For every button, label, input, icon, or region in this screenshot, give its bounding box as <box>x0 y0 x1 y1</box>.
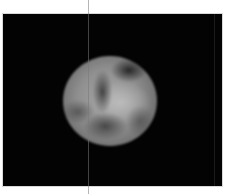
image-frame <box>3 14 222 186</box>
vertical-guide-line <box>88 0 89 194</box>
frame-edge-line <box>214 14 215 186</box>
planet-disk <box>63 56 157 146</box>
